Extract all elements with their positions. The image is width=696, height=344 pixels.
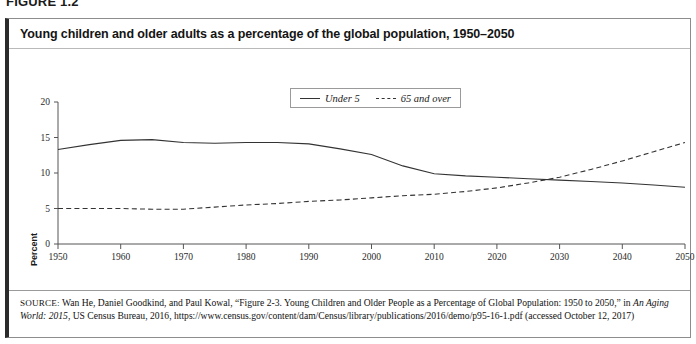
figure-root: FIGURE 1.2 Young children and older adul… (0, 0, 696, 344)
figure-title-bar: Young children and older adults as a per… (9, 19, 690, 49)
figure-number-label: FIGURE 1.2 (6, 0, 79, 9)
x-tick-label: 1980 (237, 252, 256, 262)
y-tick-label: 20 (41, 97, 51, 107)
source-note: SOURCE: Wan He, Daniel Goodkind, and Pau… (9, 290, 690, 337)
x-tick-label: 1990 (299, 252, 318, 262)
y-tick-label: 15 (41, 133, 51, 143)
x-tick-label: 2030 (550, 252, 569, 262)
y-tick-label: 5 (45, 204, 50, 214)
plot-area: Under 5 65 and over Percent 05101520 195… (9, 49, 690, 288)
x-tick-label: 2000 (362, 252, 381, 262)
y-tick-label: 10 (41, 168, 51, 178)
x-tick-label: 2040 (613, 252, 632, 262)
y-axis-ticks: 05101520 (41, 97, 59, 249)
source-note-text: SOURCE: Wan He, Daniel Goodkind, and Pau… (20, 297, 679, 322)
x-tick-label: 2050 (676, 252, 695, 262)
line-chart-canvas: 05101520 1950196019701980199020002010202… (9, 49, 695, 288)
x-axis-ticks: 1950196019701980199020002010202020302040… (49, 244, 695, 262)
x-tick-label: 1970 (174, 252, 193, 262)
x-tick-label: 1950 (49, 252, 68, 262)
figure-panel: Young children and older adults as a per… (5, 18, 691, 338)
source-line-2: , US Census Bureau, 2016, https://www.ce… (68, 310, 634, 321)
series-line-65-and-over (58, 142, 685, 209)
source-kicker: SOURCE: (20, 298, 60, 308)
x-tick-label: 2020 (487, 252, 506, 262)
x-tick-label: 2010 (425, 252, 444, 262)
figure-title: Young children and older adults as a per… (9, 27, 514, 41)
series-line-under-5 (58, 140, 685, 188)
y-tick-label: 0 (45, 239, 50, 249)
source-line-1: Wan He, Daniel Goodkind, and Paul Kowal,… (60, 297, 633, 308)
x-tick-label: 1960 (111, 252, 130, 262)
